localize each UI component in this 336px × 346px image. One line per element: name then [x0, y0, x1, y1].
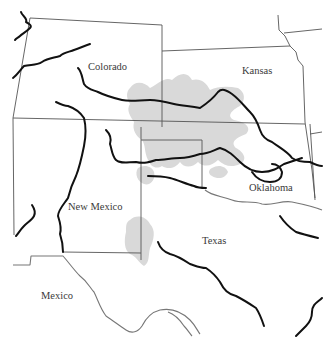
river: [252, 164, 282, 182]
kansas-north-border: [162, 46, 290, 51]
new-mexico-west-border: [13, 118, 14, 235]
missouri-river-border: [278, 15, 315, 198]
missouri-border: [310, 132, 322, 134]
pecos-river: [168, 312, 192, 336]
iowa-border: [284, 29, 322, 33]
shaded-region: [125, 74, 249, 266]
label-texas: Texas: [202, 236, 226, 247]
label-new-mexico: New Mexico: [68, 202, 123, 213]
brazos-river: [158, 242, 264, 326]
label-mexico: Mexico: [41, 291, 73, 302]
river: [296, 298, 322, 336]
label-oklahoma: Oklahoma: [249, 183, 293, 194]
label-kansas: Kansas: [242, 66, 272, 77]
river: [16, 205, 35, 236]
river: [148, 176, 206, 188]
colorado-north-border: [30, 18, 162, 25]
rio-grande-river: [56, 102, 86, 252]
label-colorado: Colorado: [88, 62, 127, 73]
rivers: [13, 12, 322, 336]
texas-river: [280, 216, 318, 238]
